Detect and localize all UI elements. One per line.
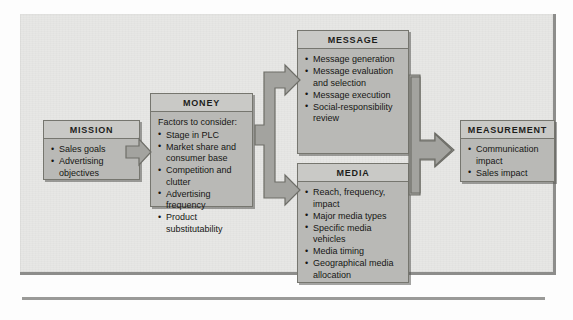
list-item: Reach, frequency, impact	[305, 187, 402, 210]
box-message-title: MESSAGE	[298, 31, 408, 49]
list-item: Major media types	[305, 211, 402, 223]
box-measurement-title: MEASUREMENT	[461, 121, 554, 139]
list-item: Market share and consumer base	[158, 142, 246, 165]
list-item: Message evaluation and selection	[305, 66, 402, 89]
box-measurement-item-list: Communication impact Sales impact	[468, 144, 548, 179]
box-message-item-list: Message generation Message evaluation an…	[305, 54, 402, 125]
box-media[interactable]: MEDIA Reach, frequency, impact Major med…	[297, 163, 409, 283]
list-item: Communication impact	[468, 144, 548, 167]
box-media-body: Reach, frequency, impact Major media typ…	[298, 182, 408, 287]
box-media-item-list: Reach, frequency, impact Major media typ…	[305, 187, 402, 281]
list-item: Advertising frequency	[158, 189, 246, 212]
box-money[interactable]: MONEY Factors to consider: Stage in PLC …	[150, 93, 253, 207]
box-mission-title: MISSION	[44, 121, 139, 139]
box-media-title: MEDIA	[298, 164, 408, 182]
list-item: Sales goals	[51, 144, 133, 156]
box-mission-item-list: Sales goals Advertising objectives	[51, 144, 133, 179]
box-message[interactable]: MESSAGE Message generation Message evalu…	[297, 30, 409, 154]
list-item: Competition and clutter	[158, 165, 246, 188]
list-item: Stage in PLC	[158, 130, 246, 142]
list-item: Geographical media allocation	[305, 258, 402, 281]
list-item: Sales impact	[468, 168, 548, 180]
box-money-body: Factors to consider: Stage in PLC Market…	[151, 112, 252, 241]
list-item: Message execution	[305, 90, 402, 102]
page-horizontal-rule	[22, 297, 545, 300]
list-item: Product substitutability	[158, 212, 246, 235]
box-money-intro: Factors to consider:	[158, 117, 246, 129]
list-item: Specific media vehicles	[305, 223, 402, 246]
box-measurement-body: Communication impact Sales impact	[461, 139, 554, 185]
list-item: Media timing	[305, 246, 402, 258]
list-item: Advertising objectives	[51, 156, 133, 179]
diagram-screenshot: MISSION Sales goals Advertising objectiv…	[0, 0, 573, 320]
box-mission-body: Sales goals Advertising objectives	[44, 139, 139, 185]
box-money-item-list: Stage in PLC Market share and consumer b…	[158, 130, 246, 236]
list-item: Social-responsibility review	[305, 102, 402, 125]
box-message-body: Message generation Message evaluation an…	[298, 49, 408, 130]
list-item: Message generation	[305, 54, 402, 66]
box-money-title: MONEY	[151, 94, 252, 112]
box-measurement[interactable]: MEASUREMENT Communication impact Sales i…	[460, 120, 555, 182]
box-mission[interactable]: MISSION Sales goals Advertising objectiv…	[43, 120, 140, 180]
